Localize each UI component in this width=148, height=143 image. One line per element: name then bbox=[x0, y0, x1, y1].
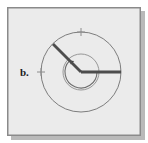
figure-panel: b. bbox=[0, 0, 148, 143]
geometry-diagram: b. bbox=[0, 0, 148, 143]
panel-label: b. bbox=[20, 66, 29, 78]
